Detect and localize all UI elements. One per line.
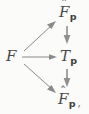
commutative-diagram: F ˆFp Tp ˆFp, [0,0,89,114]
node-source-base: F [6,49,16,64]
node-bottom-right-base: ˆF [58,92,68,107]
node-bottom-right-subscript: p [69,98,76,109]
node-top-right-Fhat-p: ˆFp [59,4,77,21]
node-middle-right-base: T [60,49,70,64]
node-top-right-subscript: p [70,11,77,22]
hat-accent-icon: ˆ [60,86,66,98]
hat-accent-icon: ˆ [61,0,67,11]
node-middle-right-subscript: p [70,55,77,66]
node-middle-right-T-p: Tp [60,48,77,65]
node-middle-right-letter: T [60,47,70,65]
trailing-comma: , [78,96,82,109]
node-source-letter: F [6,47,16,65]
node-top-right-base: ˆF [59,5,69,20]
node-source-F: F [6,48,16,64]
node-bottom-right-Fhat-p: ˆFp, [58,91,81,108]
